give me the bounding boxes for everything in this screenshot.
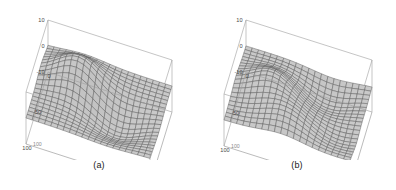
panel-b: 100-100050100100500 (b) — [198, 0, 396, 190]
svg-text:100: 100 — [231, 143, 240, 149]
svg-text:100: 100 — [220, 147, 229, 153]
svg-text:0: 0 — [245, 73, 248, 79]
svg-text:0: 0 — [239, 43, 242, 49]
svg-text:0: 0 — [47, 73, 50, 79]
svg-text:100: 100 — [33, 141, 42, 147]
svg-text:100: 100 — [22, 145, 31, 151]
svg-text:0: 0 — [41, 43, 44, 49]
svg-text:10: 10 — [38, 17, 44, 23]
panel-a: 100-100050100100500 (a) — [0, 0, 198, 190]
surface-plot-b: 100-100050100100500 — [198, 0, 396, 160]
panel-a-caption: (a) — [0, 160, 198, 170]
svg-text:0: 0 — [240, 71, 243, 77]
svg-text:10: 10 — [236, 17, 242, 23]
svg-text:50: 50 — [233, 110, 239, 116]
svg-text:50: 50 — [35, 109, 41, 115]
figure-surface-plots: 100-100050100100500 (a) 100-100050100100… — [0, 0, 396, 190]
surface-plot-a: 100-100050100100500 — [0, 0, 198, 160]
panel-b-caption: (b) — [198, 160, 396, 170]
svg-text:0: 0 — [42, 71, 45, 77]
